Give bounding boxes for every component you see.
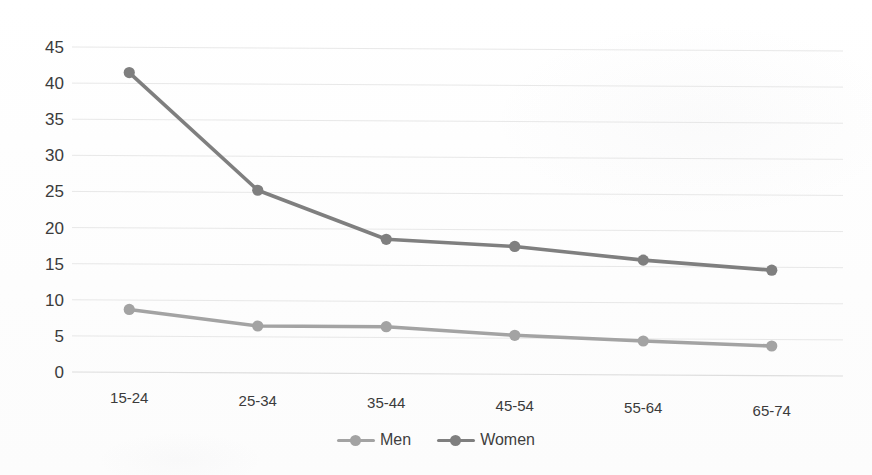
legend-label-men: Men (380, 432, 411, 448)
legend-item-men[interactable]: Men (337, 432, 411, 448)
chart-legend: MenWomen (0, 432, 872, 448)
x-tick-label-25-34: 25-34 (239, 393, 277, 408)
x-tick-label-15-24: 15-24 (110, 390, 148, 405)
legend-label-women: Women (480, 432, 535, 448)
x-tick-label-35-44: 35-44 (367, 395, 405, 410)
x-tick-label-65-74: 65-74 (753, 403, 791, 418)
legend-item-women[interactable]: Women (437, 432, 535, 448)
x-axis-tick-labels: 15-2425-3435-4445-5455-6465-74 (0, 0, 872, 475)
legend-dot-women (450, 435, 461, 446)
legend-dot-men (350, 435, 361, 446)
legend-marker-men (337, 433, 375, 447)
x-tick-label-55-64: 55-64 (624, 400, 662, 415)
line-chart: 051015202530354045 15-2425-3435-4445-545… (0, 0, 872, 475)
x-tick-label-45-54: 45-54 (496, 398, 534, 413)
legend-marker-women (437, 433, 475, 447)
